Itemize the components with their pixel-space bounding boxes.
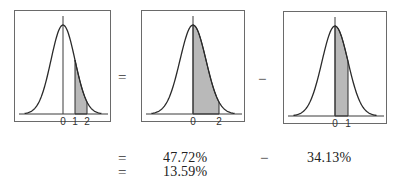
area-0-to-2-value: 47.72%	[163, 151, 207, 165]
z-tick-label: 0	[190, 116, 196, 127]
area-0-to-1-value: 34.13%	[307, 151, 351, 165]
z-tick-label: 2	[216, 116, 222, 127]
equation-row2-equals: =	[118, 165, 126, 180]
equals-operator: =	[118, 70, 126, 85]
z-tick-label: 1	[345, 118, 351, 129]
z-tick-label: 0	[60, 116, 66, 127]
normal-curve-panel-3: 01	[283, 11, 387, 124]
shaded-area	[193, 25, 219, 114]
normal-curve-chart-1: 012	[15, 11, 112, 123]
z-tick-label: 2	[84, 116, 90, 127]
normal-curve-chart-2: 02	[142, 11, 246, 123]
normal-curve-chart-3: 01	[284, 12, 388, 125]
normal-curve-panel-2: 02	[141, 10, 245, 122]
area-1-to-2-result: 13.59%	[163, 165, 207, 179]
z-tick-label: 0	[332, 118, 338, 129]
shaded-area	[335, 26, 348, 116]
z-tick-label: 1	[72, 116, 78, 127]
minus-operator: −	[258, 72, 266, 87]
normal-curve-panel-1: 012	[14, 10, 111, 122]
equation-row1-minus: −	[260, 151, 268, 166]
